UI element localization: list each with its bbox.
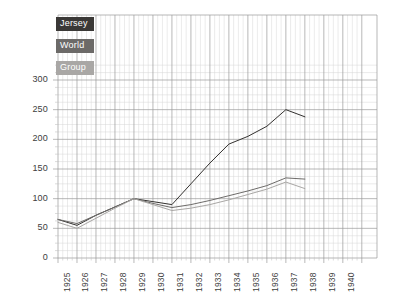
x-tick-label: 1927	[99, 272, 109, 292]
x-tick-label: 1940	[346, 272, 356, 292]
x-tick-label: 1936	[270, 272, 280, 292]
x-tick-label: 1935	[251, 272, 261, 292]
y-tick-label: 50	[16, 222, 48, 232]
chart-legend: JerseyWorldGroup	[56, 17, 94, 75]
x-tick-label: 1938	[308, 272, 318, 292]
x-tick-label: 1930	[156, 272, 166, 292]
x-tick-label: 1925	[62, 272, 72, 292]
y-tick-label: 300	[16, 74, 48, 84]
x-tick-label: 1926	[80, 272, 90, 292]
legend-item-jersey[interactable]: Jersey	[56, 17, 94, 31]
x-tick-label: 1937	[289, 272, 299, 292]
line-chart: 300250200150100500 192519261927192819291…	[0, 0, 397, 308]
y-tick-label: 250	[16, 104, 48, 114]
x-tick-label: 1931	[175, 272, 185, 292]
y-tick-label: 0	[16, 252, 48, 262]
x-tick-label: 1932	[194, 272, 204, 292]
major-gridlines	[58, 15, 377, 258]
minor-gridlines	[58, 15, 377, 258]
x-tick-label: 1934	[232, 272, 242, 292]
legend-item-world[interactable]: World	[56, 39, 94, 53]
x-tick-label: 1929	[137, 272, 147, 292]
x-tick-label: 1928	[118, 272, 128, 292]
y-tick-label: 100	[16, 193, 48, 203]
y-tick-label: 150	[16, 163, 48, 173]
legend-item-group[interactable]: Group	[56, 61, 94, 75]
x-tick-label: 1939	[327, 272, 337, 292]
y-tick-label: 200	[16, 133, 48, 143]
x-tick-label: 1933	[213, 272, 223, 292]
